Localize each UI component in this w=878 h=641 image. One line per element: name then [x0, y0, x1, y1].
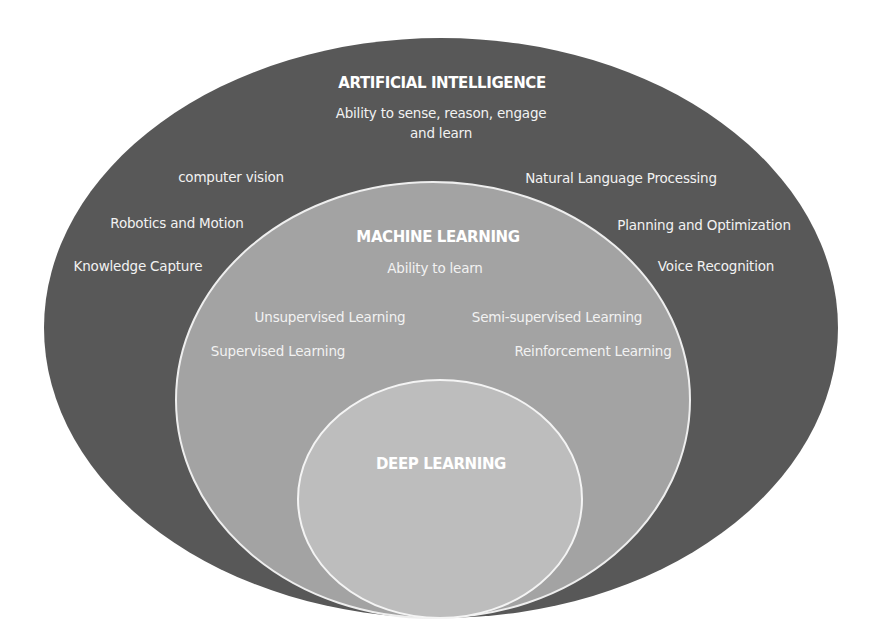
dl-title: DEEP LEARNING	[376, 456, 506, 473]
ml-title: MACHINE LEARNING	[356, 229, 519, 246]
deep-learning-ellipse	[298, 380, 582, 618]
ai-description-line1: Ability to sense, reason, engage	[336, 105, 547, 122]
ai-ml-dl-venn-diagram	[0, 0, 878, 641]
ai-description-line2: and learn	[410, 125, 472, 142]
ai-item-computer-vision: computer vision	[178, 169, 284, 186]
ml-item-reinforcement-learning: Reinforcement Learning	[514, 343, 671, 360]
ml-item-supervised-learning: Supervised Learning	[211, 343, 345, 360]
ai-item-voice-recognition: Voice Recognition	[658, 258, 774, 275]
ml-item-unsupervised-learning: Unsupervised Learning	[255, 309, 406, 326]
ai-item-planning-and-optimization: Planning and Optimization	[617, 217, 791, 234]
ai-item-natural-language-processing: Natural Language Processing	[525, 170, 717, 187]
ai-item-knowledge-capture: Knowledge Capture	[74, 258, 203, 275]
ml-item-semi-supervised-learning: Semi-supervised Learning	[472, 309, 642, 326]
ml-description: Ability to learn	[387, 260, 482, 277]
ai-item-robotics-and-motion: Robotics and Motion	[110, 215, 243, 232]
ai-title: ARTIFICIAL INTELLIGENCE	[338, 75, 546, 92]
